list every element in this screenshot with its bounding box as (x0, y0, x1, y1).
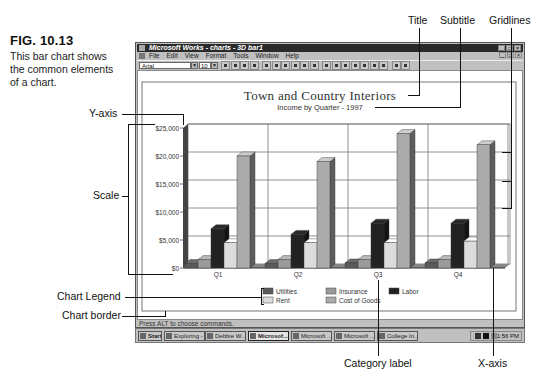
bar-cost-of-goods (317, 162, 330, 268)
bar-rent (384, 243, 397, 268)
scale-leader-line (122, 196, 129, 197)
title-leader-line (419, 28, 420, 96)
annotation-y-axis: Y-axis (89, 107, 117, 119)
y-tick-label: $15,000 (156, 181, 180, 188)
scale-bracket (128, 274, 173, 275)
annotation-chart-border: Chart border (62, 309, 121, 321)
category-label-leader-line (378, 280, 379, 356)
gridlines-leader-tick (502, 181, 512, 182)
legend-swatch (263, 297, 273, 303)
bar-insurance (278, 260, 291, 268)
bar-utilities (185, 264, 198, 268)
bar-utilities (345, 263, 358, 268)
bar-rent (304, 243, 317, 268)
gridlines-leader-tick (502, 152, 512, 153)
bar-cost-of-goods (397, 134, 410, 268)
y-axis-leader-line (183, 114, 184, 125)
bar-side (250, 152, 255, 268)
annotation-gridlines: Gridlines (489, 14, 530, 26)
bar-rent (224, 243, 237, 268)
bar-insurance (438, 260, 451, 268)
category-label: Q3 (374, 271, 383, 279)
legend-swatch (326, 288, 336, 294)
annotation-chart-legend: Chart Legend (57, 290, 121, 302)
legend-bracket (261, 288, 262, 305)
bar-utilities (265, 264, 278, 268)
category-label: Q4 (454, 271, 463, 279)
bar-cost-of-goods (477, 145, 490, 268)
legend-bracket (261, 288, 264, 289)
bar-insurance (198, 260, 211, 268)
y-axis-wall (183, 124, 188, 268)
legend-leader-line (125, 297, 262, 298)
bar-rent (464, 241, 477, 268)
annotation-subtitle: Subtitle (440, 14, 475, 26)
bar-utilities (425, 263, 438, 268)
bar-insurance (358, 260, 371, 268)
scale-bracket (128, 124, 155, 125)
category-label: Q2 (294, 271, 303, 279)
bar-side (490, 141, 495, 268)
chart-subtitle: Income by Quarter - 1997 (277, 103, 362, 112)
legend-bracket (261, 304, 264, 305)
subtitle-leader-line (460, 28, 461, 108)
bar-labor (211, 229, 224, 268)
y-tick-label: $25,000 (156, 125, 180, 132)
chart-border-leader-line (165, 311, 166, 317)
legend-swatch (263, 288, 273, 294)
annotation-x-axis: X-axis (478, 357, 507, 369)
annotation-category-label: Category label (344, 357, 412, 369)
category-label: Q1 (214, 271, 223, 279)
legend-swatch (389, 288, 399, 294)
y-tick-label: $0 (172, 265, 180, 272)
y-tick-label: $10,000 (156, 209, 180, 216)
chart-title: Town and Country Interiors (244, 88, 396, 103)
legend-label: Utilities (276, 288, 298, 295)
legend-label: Insurance (339, 288, 368, 295)
bar-labor (371, 223, 384, 268)
legend-label: Labor (402, 288, 419, 295)
bar-cost-of-goods (237, 156, 250, 268)
bar-side (410, 130, 415, 268)
bar-side (330, 158, 335, 268)
y-tick-label: $5,000 (159, 237, 179, 244)
bar-labor (291, 234, 304, 268)
scale-bracket (128, 124, 129, 275)
legend-label: Cost of Goods (339, 297, 381, 304)
legend-swatch (326, 297, 336, 303)
legend-label: Rent (276, 297, 290, 304)
chart-canvas: Town and Country InteriorsIncome by Quar… (0, 0, 547, 391)
bar-labor (451, 223, 464, 268)
gridlines-leader-tick (502, 208, 512, 209)
subtitle-leader-line (375, 107, 461, 108)
annotation-title: Title (408, 14, 427, 26)
title-leader-line (408, 95, 420, 96)
y-axis-leader-line (122, 114, 184, 115)
y-tick-label: $20,000 (156, 153, 180, 160)
chart-border-leader-line (122, 316, 166, 317)
annotation-scale: Scale (93, 189, 119, 201)
x-axis-leader-line (493, 268, 494, 356)
